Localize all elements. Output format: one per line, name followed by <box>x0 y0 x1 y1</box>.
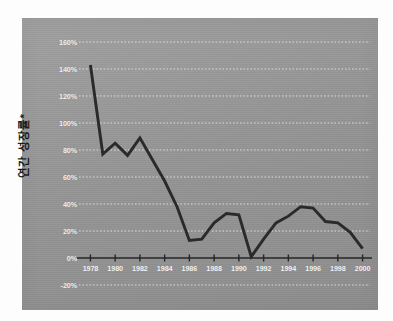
y-axis-tick-label: 80% <box>43 146 77 155</box>
y-axis-tick-label: -20% <box>43 281 77 290</box>
data-series-line <box>90 65 362 257</box>
y-axis-tick-label: 120% <box>43 92 77 101</box>
y-axis-tick-label: 0% <box>43 254 77 263</box>
y-axis-tick-label: 100% <box>43 119 77 128</box>
y-axis-title: 연간 성장률* <box>15 91 31 201</box>
x-axis-tick-label: 2000 <box>346 264 380 273</box>
gridlines <box>79 42 370 285</box>
y-axis-tick-label: 20% <box>43 227 77 236</box>
chart-screenshot: 160%140%120%100%80%60%40%20%0%-20% 19781… <box>0 0 393 321</box>
y-axis-tick-label: 140% <box>43 65 77 74</box>
data-line-series <box>90 65 362 257</box>
y-axis-tick-label: 160% <box>43 38 77 47</box>
y-axis-tick-label: 60% <box>43 173 77 182</box>
y-axis-tick-label: 40% <box>43 200 77 209</box>
